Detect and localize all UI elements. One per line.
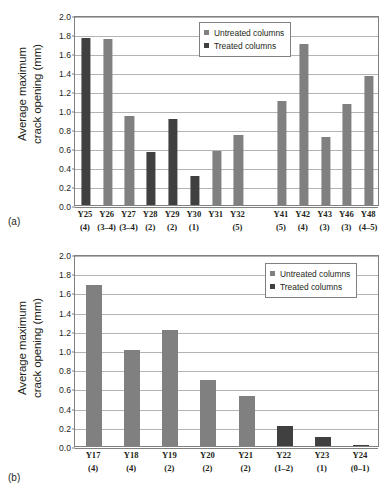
x-axis-label-Y46: Y46(3) — [339, 208, 354, 233]
x-label-name: Y20 — [200, 449, 215, 462]
x-label-name: Y46 — [339, 208, 354, 221]
x-label-sublabel: (1) — [186, 221, 201, 234]
chart-panel-a: (a) Average maximum crack opening (mm) 0… — [0, 0, 385, 250]
x-axis-label-Y27: Y27(3–4) — [119, 208, 138, 233]
x-axis-label-Y28: Y28(2) — [143, 208, 158, 233]
x-axis-label-Y48: Y48(4–5) — [359, 208, 378, 233]
x-label-name: Y41 — [274, 208, 289, 221]
legend-swatch-untreated-icon — [270, 271, 275, 276]
bar-Y48 — [365, 76, 374, 205]
y-tick-label: 1.4 — [59, 69, 71, 79]
y-tick-label: 0.6 — [59, 145, 71, 155]
x-label-sublabel: (4) — [77, 221, 92, 234]
x-label-sublabel: (4) — [124, 462, 139, 475]
legend-a: Untreated columns Treated columns — [199, 22, 291, 57]
y-axis-title-a-line1: Average maximum — [15, 0, 30, 189]
y-tick-label: 0.6 — [59, 385, 71, 395]
x-label-sublabel: (5) — [230, 221, 245, 234]
legend-row-treated-a: Treated columns — [204, 39, 284, 52]
y-tick-label: 1.6 — [59, 50, 71, 60]
x-label-sublabel: (5) — [274, 221, 289, 234]
y-tick-label: 1.2 — [59, 88, 71, 98]
x-axis-label-Y20: Y20(2) — [200, 449, 215, 474]
x-label-sublabel: (1–2) — [274, 462, 293, 475]
x-axis-label-Y42: Y42(4) — [295, 208, 310, 233]
x-axis-label-Y29: Y29(2) — [165, 208, 180, 233]
x-label-name: Y25 — [77, 208, 92, 221]
x-label-sublabel: (2) — [238, 462, 253, 475]
bar-slot — [293, 17, 315, 205]
y-tick-label: 0.8 — [59, 366, 71, 376]
x-label-name: Y21 — [238, 449, 253, 462]
x-label-name: Y17 — [86, 449, 101, 462]
legend-label-untreated: Untreated columns — [214, 28, 284, 38]
bar-Y29 — [168, 119, 177, 205]
x-label-sublabel: (2) — [200, 462, 215, 475]
x-label-name: Y19 — [162, 449, 177, 462]
bar-slot — [97, 17, 119, 205]
bar-slot — [358, 17, 380, 205]
y-tick-label: 2.0 — [59, 12, 71, 22]
y-tick-mark — [72, 207, 75, 208]
y-tick-label: 0.4 — [59, 405, 71, 415]
x-axis-label-Y31: Y31 — [208, 208, 223, 221]
y-tick-label: 0.8 — [59, 126, 71, 136]
x-label-name: Y24 — [351, 449, 370, 462]
x-axis-label-Y19: Y19(2) — [162, 449, 177, 474]
bar-slot — [162, 17, 184, 205]
y-tick-label: 1.4 — [59, 309, 71, 319]
x-label-sublabel: (0–1) — [351, 462, 370, 475]
x-label-name: Y48 — [359, 208, 378, 221]
bar-Y46 — [343, 104, 352, 205]
bar-Y43 — [321, 137, 330, 205]
x-axis-label-Y23: Y23(1) — [314, 449, 329, 474]
bar-Y30 — [190, 176, 199, 205]
plot-area-a: 0.00.20.40.60.81.01.21.41.61.82.0 Untrea… — [74, 16, 379, 206]
figure-root: (a) Average maximum crack opening (mm) 0… — [0, 0, 385, 501]
y-tick-label: 1.0 — [59, 347, 71, 357]
y-tick-label: 1.8 — [59, 270, 71, 280]
bar-Y32 — [234, 135, 243, 205]
bar-slot — [228, 256, 266, 446]
bar-Y21 — [239, 396, 255, 446]
y-tick-label: 2.0 — [59, 251, 71, 261]
x-label-name: Y26 — [97, 208, 116, 221]
x-label-name: Y43 — [317, 208, 332, 221]
x-label-name: Y22 — [274, 449, 293, 462]
legend-label-treated: Treated columns — [280, 282, 342, 292]
x-label-sublabel: (2) — [162, 462, 177, 475]
y-tick-label: 0.2 — [59, 424, 71, 434]
x-label-sublabel: (3–4) — [97, 221, 116, 234]
x-label-sublabel: (4) — [86, 462, 101, 475]
x-label-name: Y32 — [230, 208, 245, 221]
x-label-name: Y31 — [208, 208, 223, 221]
bar-slot — [336, 17, 358, 205]
panel-tag-b: (b) — [8, 472, 20, 483]
legend-swatch-untreated-icon — [204, 30, 209, 35]
bar-Y42 — [299, 44, 308, 206]
x-axis-label-Y24: Y24(0–1) — [351, 449, 370, 474]
bar-Y17 — [86, 285, 102, 446]
y-axis-title-b: Average maximum crack opening (mm) — [15, 253, 47, 443]
bar-Y20 — [200, 380, 216, 446]
legend-row-untreated-a: Untreated columns — [204, 26, 284, 39]
x-label-sublabel: (1) — [314, 462, 329, 475]
bar-slot — [151, 256, 189, 446]
bar-Y31 — [212, 151, 221, 205]
bar-Y27 — [125, 116, 134, 205]
x-label-name: Y27 — [119, 208, 138, 221]
x-axis-label-Y41: Y41(5) — [274, 208, 289, 233]
y-tick-label: 1.0 — [59, 107, 71, 117]
y-axis-title-b-line2: crack opening (mm) — [30, 253, 45, 443]
y-tick-label: 0.4 — [59, 164, 71, 174]
bar-Y28 — [147, 152, 156, 205]
legend-label-untreated: Untreated columns — [280, 269, 350, 279]
x-axis-label-Y30: Y30(1) — [186, 208, 201, 233]
bar-slot — [113, 256, 151, 446]
bar-slot — [140, 17, 162, 205]
x-label-sublabel: (3–4) — [119, 221, 138, 234]
y-tick-label: 1.6 — [59, 289, 71, 299]
y-tick-label: 0.0 — [59, 443, 71, 453]
x-label-sublabel: (4) — [295, 221, 310, 234]
x-label-sublabel: (3) — [317, 221, 332, 234]
